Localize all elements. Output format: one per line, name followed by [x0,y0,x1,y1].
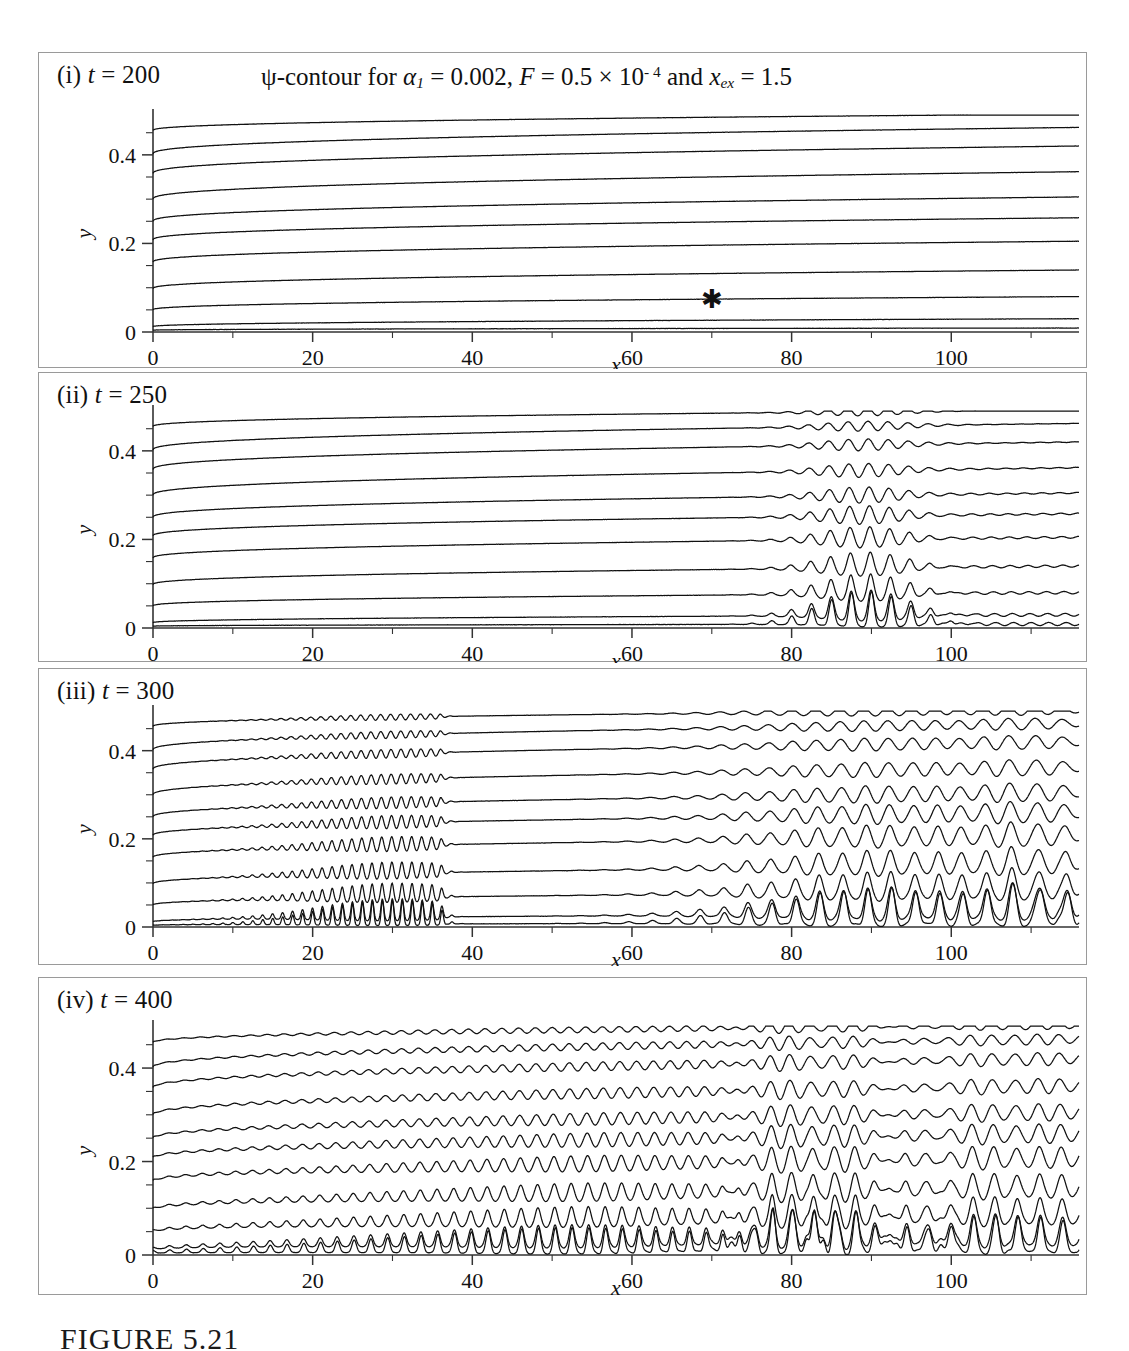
svg-text:40: 40 [461,641,483,663]
contour-line [153,297,1079,310]
figure-root: (i) t = 200 ψ-contour for α1 = 0.002, F … [0,0,1129,1351]
contour-line [153,487,1079,517]
svg-text:0: 0 [148,641,159,663]
svg-text:0.2: 0.2 [109,827,137,852]
x-axis-label: x [610,648,621,663]
contour-line [153,241,1079,262]
contour-line [153,328,1079,330]
svg-text:0: 0 [125,1243,136,1268]
contour-line [153,552,1079,584]
contour-line [153,802,1079,836]
svg-text:0.4: 0.4 [109,1056,137,1081]
x-axis-label: x [610,352,621,369]
contour-line [153,146,1079,173]
contour-line [153,783,1079,817]
contour-line [153,1104,1079,1138]
svg-text:40: 40 [461,940,483,965]
svg-text:100: 100 [935,641,968,663]
plot-area-i: 00.20.4020406080100yx✱ [39,53,1088,369]
svg-text:0: 0 [148,940,159,965]
plot-area-iii: 00.20.4020406080100yx [39,669,1088,966]
asterisk-marker: ✱ [701,285,723,314]
svg-text:20: 20 [302,345,324,369]
svg-text:0: 0 [148,1268,159,1293]
contour-line [153,1124,1079,1157]
contour-line [153,822,1079,857]
contour-line [153,411,1079,426]
contour-line [153,127,1079,154]
contour-line [153,439,1079,470]
svg-text:80: 80 [781,1268,803,1293]
y-axis-label: y [71,1145,96,1157]
svg-text:60: 60 [621,940,643,965]
svg-text:20: 20 [302,1268,324,1293]
svg-text:20: 20 [302,940,324,965]
svg-text:100: 100 [935,345,968,369]
contour-line [153,527,1079,558]
contour-line [153,218,1079,240]
contour-line [153,319,1079,327]
contour-line [153,883,1079,926]
contour-svg-iii: 00.20.4020406080100yx [39,669,1088,966]
contour-line [153,718,1079,750]
contour-line [153,463,1079,495]
x-axis-label: x [610,947,621,966]
figure-caption: FIGURE 5.21 [60,1322,239,1351]
svg-text:0.2: 0.2 [109,527,137,552]
contour-line [153,574,1079,606]
y-axis-label: y [71,824,96,836]
contour-line [153,1079,1079,1115]
contour-line [153,847,1079,884]
svg-text:80: 80 [781,345,803,369]
contour-svg-iv: 00.20.4020406080100yx [39,978,1088,1296]
svg-text:40: 40 [461,345,483,369]
contour-line [153,270,1079,289]
panel-iv: (iv) t = 400 00.20.4020406080100yx [38,977,1087,1295]
svg-text:60: 60 [621,1268,643,1293]
svg-text:0.4: 0.4 [109,439,137,464]
svg-text:20: 20 [302,641,324,663]
y-axis-label: y [71,228,96,240]
svg-text:0.4: 0.4 [109,143,137,168]
contour-line [153,1173,1079,1209]
contour-line [153,172,1079,199]
panel-iii: (iii) t = 300 00.20.4020406080100yx [38,668,1087,965]
contour-line [153,1208,1079,1254]
plot-area-ii: 00.20.4020406080100yx [39,373,1088,663]
svg-text:0: 0 [125,616,136,641]
svg-text:80: 80 [781,641,803,663]
svg-text:100: 100 [935,1268,968,1293]
plot-area-iv: 00.20.4020406080100yx [39,978,1088,1296]
contour-line [153,1209,1079,1249]
contour-line [153,1146,1079,1180]
contour-svg-i: 00.20.4020406080100yx✱ [39,53,1088,369]
svg-text:0: 0 [148,345,159,369]
y-axis-label: y [71,524,96,536]
contour-line [153,1053,1079,1088]
contour-line [153,592,1079,628]
panel-ii: (ii) t = 250 00.20.4020406080100yx [38,372,1087,662]
contour-line [153,1026,1079,1042]
contour-line [153,1195,1079,1231]
contour-line [153,590,1079,623]
svg-text:0.4: 0.4 [109,739,137,764]
svg-text:0: 0 [125,320,136,345]
x-axis-label: x [610,1275,621,1296]
svg-text:60: 60 [621,345,643,369]
svg-text:80: 80 [781,940,803,965]
contour-line [153,736,1079,770]
svg-text:0: 0 [125,915,136,940]
svg-text:100: 100 [935,940,968,965]
svg-text:0.2: 0.2 [109,1150,137,1175]
contour-line [153,115,1079,130]
contour-line [153,197,1079,221]
panel-i: (i) t = 200 ψ-contour for α1 = 0.002, F … [38,52,1087,368]
contour-line [153,506,1079,536]
svg-text:0.2: 0.2 [109,231,137,256]
svg-text:60: 60 [621,641,643,663]
svg-text:40: 40 [461,1268,483,1293]
contour-line [153,868,1079,905]
contour-svg-ii: 00.20.4020406080100yx [39,373,1088,663]
